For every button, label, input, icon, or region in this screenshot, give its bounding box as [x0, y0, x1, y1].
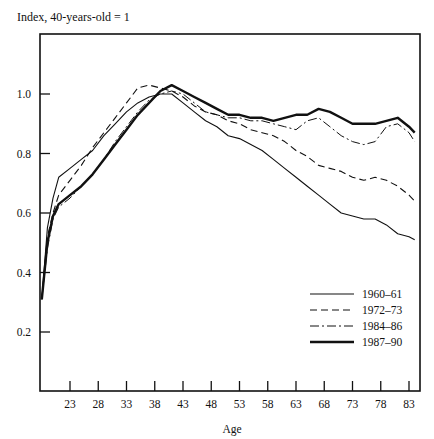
y-tick-label: 0.6 [17, 207, 32, 219]
legend-label: 1960–61 [362, 288, 403, 300]
x-tick-label: 78 [375, 398, 387, 410]
x-tick-label: 28 [93, 398, 105, 410]
series-lines [42, 85, 415, 299]
x-tick-label: 68 [319, 398, 331, 410]
legend-label: 1984–86 [362, 320, 403, 332]
x-tick-label: 33 [121, 398, 133, 410]
x-tick-label: 43 [177, 398, 189, 410]
y-tick-label: 0.4 [17, 267, 32, 279]
x-tick-label: 38 [149, 398, 161, 410]
series-1984-86-line [42, 91, 415, 299]
x-axis-title: Age [222, 423, 241, 436]
series-1987-90-line [42, 85, 415, 299]
y-tick-label: 0.2 [17, 326, 32, 338]
x-axis: 23283338434853586368737883 [64, 381, 415, 410]
x-tick-label: 83 [403, 398, 415, 410]
x-tick-label: 63 [290, 398, 302, 410]
series-1972-73-line [42, 85, 415, 299]
x-tick-label: 48 [206, 398, 218, 410]
y-tick-label: 0.8 [17, 148, 32, 160]
legend-label: 1972–73 [362, 304, 403, 316]
x-tick-label: 53 [234, 398, 246, 410]
y-tick-label: 1.0 [17, 88, 32, 100]
legend-label: 1987–90 [362, 336, 403, 348]
y-axis: 0.20.40.60.81.0 [17, 88, 50, 338]
x-tick-label: 73 [347, 398, 359, 410]
line-chart: 0.20.40.60.81.0 232833384348535863687378… [0, 0, 434, 439]
x-tick-label: 58 [262, 398, 274, 410]
legend: 1960–611972–731984–861987–90 [310, 288, 403, 348]
x-tick-label: 23 [64, 398, 76, 410]
